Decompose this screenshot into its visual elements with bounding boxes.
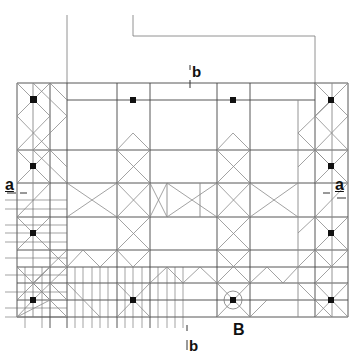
column-marker: [328, 297, 334, 303]
section-b-top-label: b: [192, 64, 201, 79]
detail-b-label: B: [233, 322, 245, 338]
column-marker: [328, 230, 334, 236]
grid-plan-svg: [0, 0, 353, 361]
structural-columns: [30, 96, 334, 303]
hatched-floor-lines: [5, 200, 183, 328]
column-marker: [30, 230, 36, 236]
column-marker: [130, 297, 136, 303]
column-marker: [30, 163, 36, 169]
column-marker: [328, 163, 334, 169]
main-grid: [17, 83, 348, 328]
column-marker: [328, 97, 334, 103]
column-marker: [30, 297, 36, 303]
column-marker: [30, 96, 37, 103]
column-marker: [230, 97, 236, 103]
column-marker: [130, 97, 136, 103]
section-b-bottom-label: b: [189, 338, 198, 353]
section-a-right-label: a: [335, 177, 344, 193]
section-marks: [7, 65, 346, 350]
column-marker: [230, 297, 236, 303]
top-guide-lines: [67, 15, 315, 83]
section-a-left-label: a: [5, 177, 14, 193]
